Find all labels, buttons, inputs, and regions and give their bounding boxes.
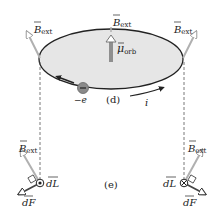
b-ext-center-label: Bext [112, 17, 131, 29]
b-ext-right-arrow [183, 34, 195, 58]
dl-right-label: dL [163, 178, 176, 189]
b-ext-right-e-label: Bext [187, 143, 206, 155]
electron-label: −e [74, 95, 87, 105]
b-ext-right-label: Bext [173, 24, 192, 36]
dl-left-label: dL [46, 178, 59, 189]
df-left-label: dF [22, 197, 36, 208]
current-label: i [145, 97, 148, 108]
electron [78, 83, 89, 94]
b-ext-left-label: Bext [33, 24, 52, 36]
df-right-label: dF [183, 197, 197, 208]
b-ext-left-e-label: Bext [18, 143, 37, 155]
current-arrow [130, 88, 162, 96]
b-ext-left-arrow [28, 34, 40, 58]
magnetic-dipole-diagram: Bext Bext Bext μorb −e (d) i Bext dL dF … [0, 0, 217, 217]
panel-d-label: (d) [106, 94, 120, 105]
panel-e-label: (e) [104, 179, 118, 190]
